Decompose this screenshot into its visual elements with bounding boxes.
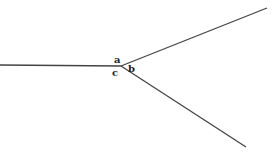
- angle-label-b: b: [128, 63, 135, 74]
- diagram-canvas: a c b: [0, 0, 276, 163]
- angle-label-c: c: [112, 67, 118, 78]
- left-ray: [0, 65, 121, 66]
- lower-right-ray: [121, 66, 246, 147]
- upper-right-ray: [121, 8, 267, 66]
- angle-label-a: a: [114, 54, 121, 65]
- angle-diagram: a c b: [0, 0, 276, 163]
